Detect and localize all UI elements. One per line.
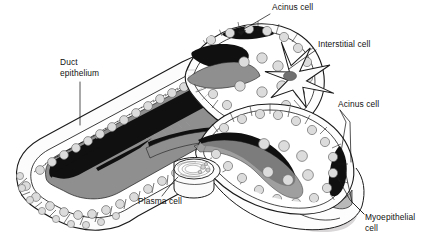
label-myoepithelial-cell: Myoepithelial cell bbox=[365, 212, 415, 233]
diagram-canvas bbox=[0, 0, 424, 243]
label-acinus-cell-top: Acinus cell bbox=[272, 2, 313, 13]
label-acinus-cell-right: Acinus cell bbox=[338, 99, 379, 110]
label-plasma-cell: Plasma cell bbox=[138, 196, 182, 207]
label-duct-epithelium: Duct epithelium bbox=[60, 57, 99, 78]
label-interstitial-cell: Interstitial cell bbox=[318, 39, 370, 50]
plasma-cell-shape bbox=[174, 158, 220, 199]
interstitial-nucleus bbox=[284, 71, 297, 80]
gland-diagram-figure: Acinus cell Interstitial cell Acinus cel… bbox=[0, 0, 424, 243]
acinus-lower-right bbox=[194, 104, 354, 214]
